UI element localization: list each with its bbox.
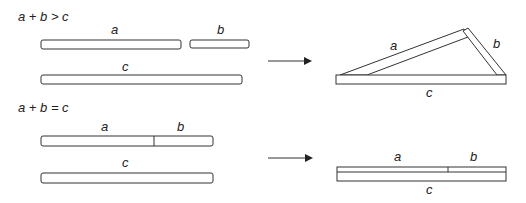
triangle-figure bbox=[336, 28, 506, 84]
label-c-bottom: c bbox=[122, 155, 129, 170]
label-b-top: b bbox=[217, 22, 224, 37]
triangle-label-a: a bbox=[390, 38, 397, 53]
arrow-right-icon bbox=[268, 57, 312, 65]
triangle-side-a bbox=[340, 29, 468, 75]
segment-a-plus-b bbox=[41, 136, 213, 146]
triangle-label-b: b bbox=[493, 36, 500, 51]
arrow-right-icon bbox=[268, 154, 313, 162]
segment-c-bottom bbox=[41, 173, 213, 183]
collapsed-label-a: a bbox=[394, 149, 401, 164]
segment-c bbox=[41, 75, 242, 84]
segment-b bbox=[190, 40, 249, 48]
label-b-bottom: b bbox=[177, 119, 184, 134]
label-a-top: a bbox=[111, 22, 118, 37]
collapsed-segments bbox=[337, 167, 506, 181]
condition-label-2: a + b = c bbox=[18, 100, 69, 115]
triangle-inequality-diagram: a + b > c a b c a b c a + b = c a b c a … bbox=[0, 0, 526, 203]
triangle-label-c: c bbox=[426, 85, 433, 100]
collapsed-label-c: c bbox=[426, 182, 433, 197]
condition-label-1: a + b > c bbox=[18, 9, 69, 24]
segment-a bbox=[41, 40, 181, 49]
triangle-side-c bbox=[336, 75, 506, 84]
collapsed-label-b: b bbox=[470, 149, 477, 164]
label-a-bottom: a bbox=[101, 119, 108, 134]
label-c-top: c bbox=[122, 59, 129, 74]
